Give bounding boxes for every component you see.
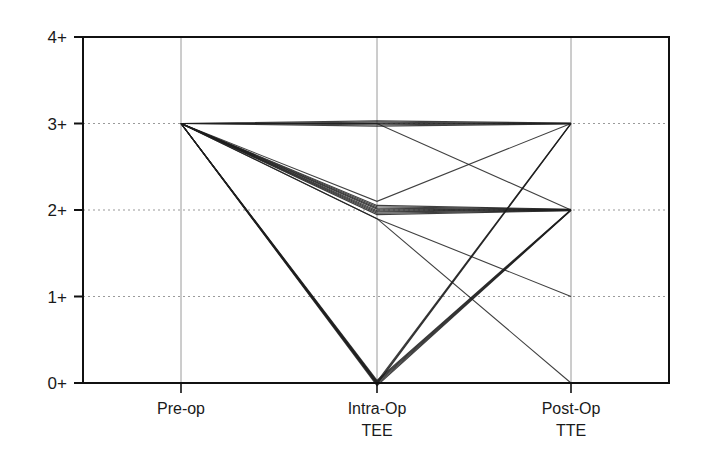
x-tick-label: Post-Op [542,400,601,417]
series-line [181,124,571,211]
y-tick-label: 0+ [48,374,67,393]
x-axis: Pre-opIntra-OpTEEPost-OpTTE [157,383,600,439]
series-line [181,124,571,382]
y-axis: 0+1+2+3+4+ [48,28,83,393]
y-tick-label: 4+ [48,28,67,47]
series-line [181,124,571,211]
y-tick-label: 3+ [48,115,67,134]
series-line [181,123,571,381]
x-tick-sublabel: TTE [556,422,586,439]
series-line [181,124,571,212]
series-line [181,124,571,381]
series-line [181,124,571,384]
x-tick-label: Intra-Op [348,400,407,417]
series-line [181,124,571,210]
series-line [181,124,571,384]
series-line [181,124,571,385]
chart: 0+1+2+3+4+ Pre-opIntra-OpTEEPost-OpTTE [0,0,707,476]
series-line [181,124,571,385]
series-line [181,124,571,210]
series-line [181,124,571,386]
x-tick-sublabel: TEE [361,422,392,439]
series-line [181,124,571,210]
y-tick-label: 1+ [48,288,67,307]
y-tick-label: 2+ [48,201,67,220]
series-lines [181,121,571,386]
series-line [181,124,571,210]
x-tick-label: Pre-op [157,400,205,417]
series-line [181,124,571,384]
series-line [181,124,571,202]
